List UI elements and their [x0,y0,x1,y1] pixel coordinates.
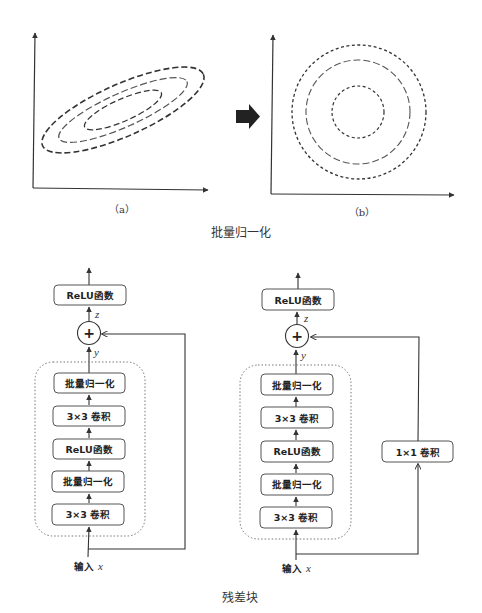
relu-output-label-right: ReLU函数 [274,295,321,306]
plot-b: （b） [271,35,454,218]
circle-inner [332,86,384,138]
residual-block-projection [240,273,453,560]
plot-a-label: （a） [109,204,135,215]
circle-outer [292,45,426,179]
ellipse-outer [32,50,214,169]
right-arrow-icon [236,104,260,129]
plot-b-label: （b） [349,207,375,218]
plot-a-y-axis [33,33,35,188]
ellipse-middle [52,66,194,154]
plus-icon-right: + [291,328,303,344]
plot-b-y-axis [271,35,273,194]
layer-relu-right: ReLU函数 [273,446,320,457]
layer-batch-norm-1: 批量归一化 [63,476,113,487]
z-label-right: z [303,312,309,324]
figure-canvas: （a） （b） 批量归一化 [0,0,482,613]
conv1x1-label: 1×1 卷积 [396,447,441,458]
layer-conv3x3-1-right: 3×3 卷积 [274,512,319,523]
caption-residual-block: 残差块 [222,591,258,605]
layer-batch-norm-1-right: 批量归一化 [272,479,322,490]
plus-icon: + [83,325,95,341]
layer-conv3x3-2-right: 3×3 卷积 [275,413,320,424]
input-var-right: x [305,562,311,574]
input-label-right: 输入 [282,563,302,574]
layer-relu: ReLU函数 [65,444,112,455]
layer-batch-norm-2: 批量归一化 [65,378,115,389]
layer-conv3x3-2: 3×3 卷积 [67,411,112,422]
input-label: 输入 [74,561,94,572]
layer-conv3x3-1: 3×3 卷积 [66,509,111,520]
relu-output-label: ReLU函数 [66,290,113,301]
plot-b-x-axis [271,194,454,195]
circle-middle [306,60,410,164]
caption-batch-norm: 批量归一化 [211,225,271,240]
input-var: x [97,560,103,572]
layer-batch-norm-2-right: 批量归一化 [272,380,322,391]
y-label: y [93,346,99,358]
z-label: z [94,308,100,320]
y-label-right: y [300,349,306,361]
plot-a: （a） [32,33,214,215]
plot-a-x-axis [33,188,208,190]
